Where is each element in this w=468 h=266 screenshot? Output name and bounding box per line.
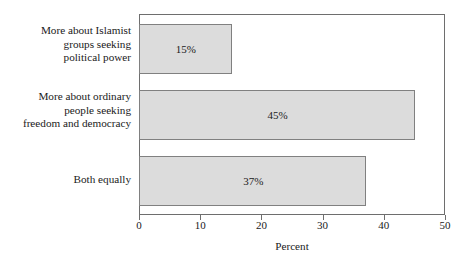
- bar-value-label: 15%: [140, 24, 232, 74]
- category-label-line: More about Islamist: [3, 24, 131, 38]
- plot-area: 15% 45% 37%: [139, 14, 445, 215]
- category-label-islamist-groups: More about Islamist groups seeking polit…: [3, 24, 131, 65]
- category-label-ordinary-people: More about ordinary people seeking freed…: [3, 90, 131, 131]
- x-axis-tick-label: 10: [180, 219, 220, 231]
- x-axis-tick-label: 30: [303, 219, 343, 231]
- category-label-line: people seeking: [3, 104, 131, 118]
- x-axis-tick-label: 50: [425, 219, 465, 231]
- category-label-both-equally: Both equally: [3, 173, 131, 187]
- x-axis-tick-label: 0: [119, 219, 159, 231]
- bar-chart-figure: More about Islamist groups seeking polit…: [0, 0, 468, 266]
- bar-value-label: 37%: [140, 156, 366, 206]
- x-axis-tick-label: 20: [241, 219, 281, 231]
- x-axis-title: Percent: [139, 240, 445, 252]
- category-label-line: groups seeking: [3, 38, 131, 52]
- category-label-line: political power: [3, 51, 131, 65]
- x-axis-tick-label: 40: [364, 219, 404, 231]
- category-label-line: freedom and democracy: [3, 117, 131, 131]
- category-label-line: Both equally: [3, 173, 131, 187]
- category-label-line: More about ordinary: [3, 90, 131, 104]
- bar-value-label: 45%: [140, 90, 415, 140]
